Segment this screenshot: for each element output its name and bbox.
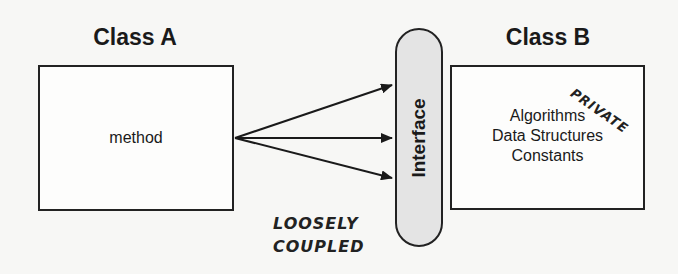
class-b-title: Class B xyxy=(448,24,648,51)
class-b-item-constants: Constants xyxy=(452,146,643,166)
coupled-annotation: COUPLED xyxy=(273,237,364,256)
loosely-annotation: LOOSELY xyxy=(273,214,359,233)
class-b-box: Algorithms Data Structures Constants xyxy=(450,65,645,210)
interface-label: Interface xyxy=(408,98,430,177)
arrow-lower xyxy=(235,138,392,178)
arrow-upper xyxy=(235,85,392,138)
interface-pill: Interface xyxy=(395,28,443,247)
